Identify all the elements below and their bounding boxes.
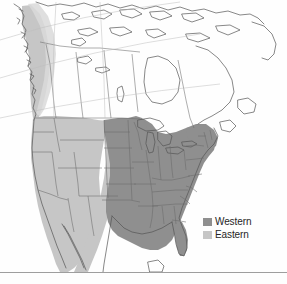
range-map-figure: Western Eastern [0, 0, 287, 284]
western-range-layer [104, 116, 218, 256]
legend-item-eastern: Eastern [203, 229, 283, 240]
border-ontario-quebec [178, 60, 194, 128]
great-slave-lake [78, 56, 92, 64]
coastline-yucatan [148, 260, 164, 272]
map-legend: Western Eastern [203, 216, 283, 242]
figure-bottom-rule [0, 272, 287, 273]
coastline-labrador [196, 46, 234, 124]
border-sask-manitoba [104, 50, 111, 118]
lake-athabasca [96, 67, 110, 73]
great-bear-lake [72, 38, 86, 46]
coastline-greenland-edge [252, 22, 276, 60]
border-manitoba-ontario [132, 54, 138, 112]
coastline-newfoundland [220, 98, 256, 132]
legend-label-eastern: Eastern [215, 230, 249, 240]
lake-winnipeg [117, 86, 124, 102]
legend-label-western: Western [215, 217, 251, 227]
coastline-hudson-bay [144, 56, 180, 104]
legend-swatch-western [203, 218, 212, 226]
coastline-arctic-islands [62, 9, 240, 42]
graticule-meridian-2 [100, 2, 105, 118]
border-alberta-sask [76, 52, 83, 118]
legend-item-western: Western [203, 216, 283, 227]
legend-swatch-eastern [203, 231, 212, 239]
